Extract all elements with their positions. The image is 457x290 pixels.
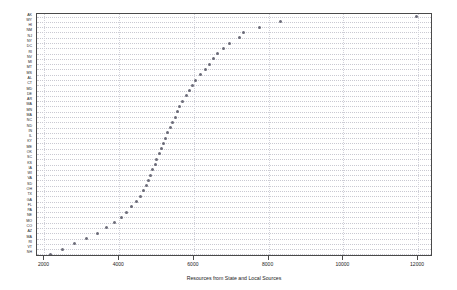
data-point	[216, 52, 219, 55]
y-axis-label: SD	[27, 183, 32, 187]
y-axis-label: MD	[26, 88, 32, 92]
data-point	[154, 163, 157, 166]
y-axis-label: NH	[27, 252, 32, 256]
data-point	[185, 94, 188, 97]
y-axis-label: DE	[27, 93, 32, 97]
y-axis-label: IA	[29, 167, 32, 171]
y-axis-label: NY	[27, 40, 32, 44]
data-point	[415, 15, 418, 18]
y-axis-label: KS	[27, 162, 32, 166]
x-axis-tick-label: 10000	[335, 261, 349, 267]
y-axis-label: WY	[26, 19, 32, 23]
data-point	[151, 168, 154, 171]
y-axis-label: ME	[27, 146, 32, 150]
x-axis-tick	[342, 256, 343, 260]
data-point	[204, 68, 207, 71]
data-point	[279, 20, 282, 23]
x-axis-tick	[268, 256, 269, 260]
y-axis-label: CT	[27, 83, 32, 87]
y-axis-label: AZ	[27, 230, 32, 234]
y-axis-label: MT	[27, 67, 32, 71]
data-point	[164, 137, 167, 140]
y-axis-label: KY	[27, 141, 32, 145]
data-point	[135, 200, 138, 203]
y-axis-label: NC	[27, 119, 32, 123]
x-axis-tick-label: 2000	[38, 261, 49, 267]
y-axis-label: AR	[27, 98, 32, 102]
data-point	[258, 26, 261, 29]
data-point	[96, 232, 99, 235]
data-point	[238, 36, 241, 39]
y-axis-label: MI	[28, 61, 32, 65]
y-axis-label: IN	[28, 130, 32, 134]
y-axis-label: RI	[28, 241, 32, 245]
y-axis-label: HI	[28, 24, 32, 28]
data-point	[178, 105, 181, 108]
y-axis-label: NE	[27, 215, 32, 219]
data-point	[142, 189, 145, 192]
y-axis-label: IL	[29, 135, 32, 139]
data-point	[120, 216, 123, 219]
y-axis-label: WA	[26, 104, 32, 108]
data-point	[188, 89, 191, 92]
data-point	[166, 131, 169, 134]
y-axis-label: NV	[27, 56, 32, 60]
data-point	[194, 79, 197, 82]
data-point	[139, 195, 142, 198]
y-axis-label: SC	[27, 156, 32, 160]
y-axis-label: MS	[27, 72, 32, 76]
x-axis-tick	[417, 256, 418, 260]
y-axis-label: RI	[28, 51, 32, 55]
dot-plot-chart: AKWYHINMNJNYDCRINVMIMTMSALCTMDDEARWAMNMA…	[0, 0, 457, 290]
data-point	[162, 142, 165, 145]
data-point	[191, 84, 194, 87]
data-point	[105, 226, 108, 229]
data-point	[147, 179, 150, 182]
y-axis-label: MA	[27, 114, 32, 118]
y-axis-label: OH	[27, 188, 32, 192]
y-axis-label: WI	[28, 172, 32, 176]
data-point	[212, 57, 215, 60]
y-axis-label: NM	[26, 30, 32, 34]
x-axis-title: Resources from State and Local Sources	[36, 275, 432, 281]
x-axis-tick	[118, 256, 119, 260]
y-axis-label: MN	[26, 109, 32, 113]
y-axis-label: NJ	[28, 35, 32, 39]
data-point	[176, 110, 179, 113]
data-points-layer	[37, 14, 431, 255]
data-point	[85, 237, 88, 240]
y-axis-label: VA	[27, 178, 32, 182]
y-axis-label: AK	[27, 14, 32, 18]
x-axis-tick-label: 12000	[410, 261, 424, 267]
data-point	[174, 116, 177, 119]
data-point	[171, 121, 174, 124]
y-axis-label: DC	[27, 46, 32, 50]
plot-area	[36, 13, 432, 256]
y-axis-label: FL	[28, 204, 32, 208]
data-point	[169, 126, 172, 129]
data-point	[125, 211, 128, 214]
x-axis-tick	[43, 256, 44, 260]
data-point	[113, 221, 116, 224]
y-axis-label: ND	[27, 125, 32, 129]
x-axis-tick	[193, 256, 194, 260]
y-axis-label: GA	[27, 199, 32, 203]
data-point	[208, 63, 211, 66]
data-point	[160, 147, 163, 150]
y-axis-label: MA	[27, 236, 32, 240]
data-point	[130, 205, 133, 208]
y-axis-label: TX	[27, 193, 32, 197]
data-point	[228, 42, 231, 45]
data-point	[155, 158, 158, 161]
data-point	[242, 31, 245, 34]
data-point	[73, 242, 76, 245]
x-axis-tick-label: 4000	[113, 261, 124, 267]
data-point	[222, 47, 225, 50]
x-axis: 20004000600080001000012000	[36, 256, 432, 286]
y-axis-label: AL	[28, 77, 32, 81]
data-point	[158, 152, 161, 155]
data-point	[181, 100, 184, 103]
y-axis-label: MO	[26, 220, 32, 224]
data-point	[145, 184, 148, 187]
y-axis-category-labels: AKWYHINMNJNYDCRINVMIMTMSALCTMDDEARWAMNMA…	[0, 13, 34, 256]
